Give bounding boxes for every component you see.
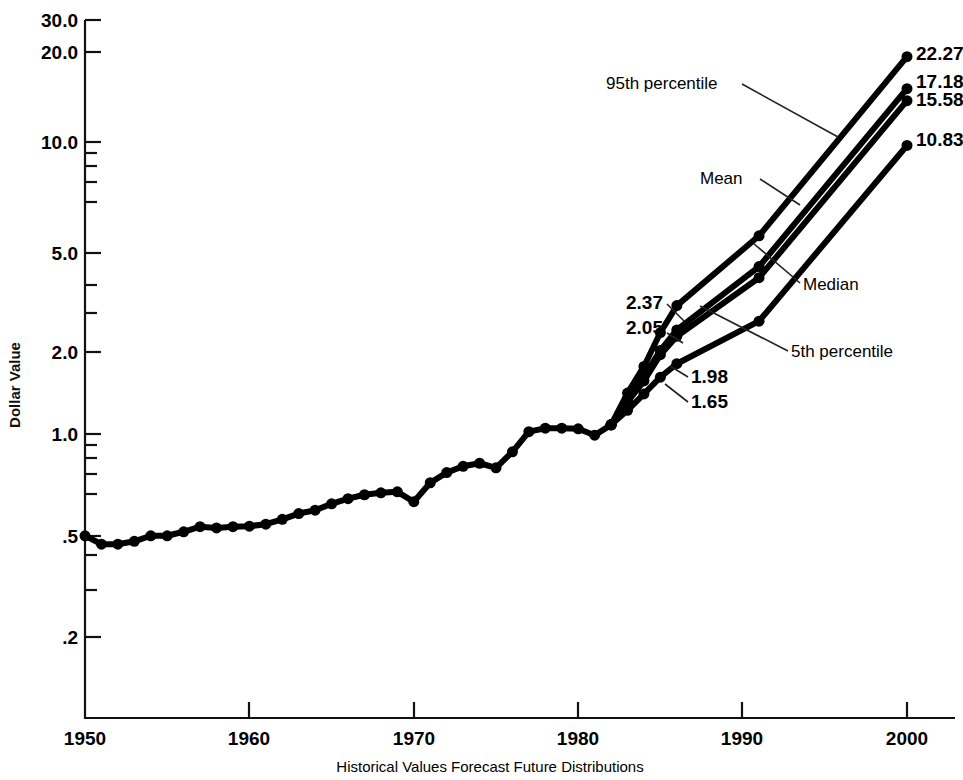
data-point (359, 489, 370, 500)
y-tick-label: 2.0 (52, 342, 78, 363)
data-point (408, 496, 419, 507)
data-point (458, 461, 469, 472)
data-point (145, 530, 156, 541)
data-point (129, 536, 140, 547)
data-point (474, 458, 485, 469)
data-point (540, 423, 551, 434)
data-point (195, 521, 206, 532)
data-point (573, 423, 584, 434)
data-point (375, 487, 386, 498)
data-point (425, 477, 436, 488)
x-tick-label: 2000 (886, 728, 928, 749)
x-tick-label: 1970 (393, 728, 435, 749)
chart-figure: 30.0 20.0 10.0 5.0 2.0 1.0 .5 .2 1950 19… (0, 0, 963, 780)
data-point (227, 521, 238, 532)
data-point (293, 508, 304, 519)
data-point (754, 316, 765, 327)
y-tick-label: .5 (62, 526, 78, 547)
data-point (96, 539, 107, 550)
data-point (606, 419, 617, 430)
data-point (556, 423, 567, 434)
data-point (244, 521, 255, 532)
data-point (622, 405, 633, 416)
chart-background (0, 0, 963, 780)
line-chart-svg: 30.0 20.0 10.0 5.0 2.0 1.0 .5 .2 1950 19… (0, 0, 963, 780)
data-point (392, 486, 403, 497)
y-tick-label: 30.0 (41, 10, 78, 31)
y-tick-label: 1.0 (52, 424, 78, 445)
endpoint-label-10-83: 10.83 (916, 129, 963, 150)
data-point (655, 349, 666, 360)
annotation-mean: Mean (700, 169, 743, 188)
data-point (754, 261, 765, 272)
data-point (638, 361, 649, 372)
annotation-5th-percentile: 5th percentile (791, 342, 893, 361)
data-point (902, 51, 913, 62)
data-point (589, 430, 600, 441)
data-point (80, 530, 91, 541)
annotation-median: Median (803, 275, 859, 294)
data-point (260, 519, 271, 530)
data-point (638, 375, 649, 386)
data-point (902, 140, 913, 151)
data-point (902, 95, 913, 106)
x-tick-label: 1950 (64, 728, 106, 749)
data-point (178, 526, 189, 537)
data-point (112, 539, 123, 550)
y-axis-title: Dollar Value (6, 342, 23, 428)
data-label-2-05: 2.05 (626, 317, 663, 338)
x-axis-caption: Historical Values Forecast Future Distri… (336, 758, 643, 775)
data-point (326, 498, 337, 509)
data-point (754, 272, 765, 283)
x-tick-label: 1990 (721, 728, 763, 749)
data-point (343, 493, 354, 504)
data-point (655, 372, 666, 383)
data-point (523, 426, 534, 437)
y-tick-label: 10.0 (41, 132, 78, 153)
data-label-2-37: 2.37 (626, 292, 663, 313)
data-label-1-98: 1.98 (691, 366, 728, 387)
data-point (162, 530, 173, 541)
endpoint-label-15-58: 15.58 (916, 89, 963, 110)
y-tick-label: .2 (62, 627, 78, 648)
x-tick-label: 1980 (557, 728, 599, 749)
data-point (902, 83, 913, 94)
endpoint-label-22-27: 22.27 (916, 43, 963, 64)
data-point (441, 467, 452, 478)
y-tick-label: 20.0 (41, 42, 78, 63)
y-tick-label: 5.0 (52, 243, 78, 264)
data-point (491, 462, 502, 473)
data-point (277, 514, 288, 525)
data-point (211, 522, 222, 533)
data-label-1-65: 1.65 (691, 391, 728, 412)
x-tick-label: 1960 (228, 728, 270, 749)
annotation-95th-percentile: 95th percentile (606, 74, 718, 93)
data-point (638, 388, 649, 399)
data-point (754, 230, 765, 241)
data-point (310, 505, 321, 516)
data-point (507, 446, 518, 457)
